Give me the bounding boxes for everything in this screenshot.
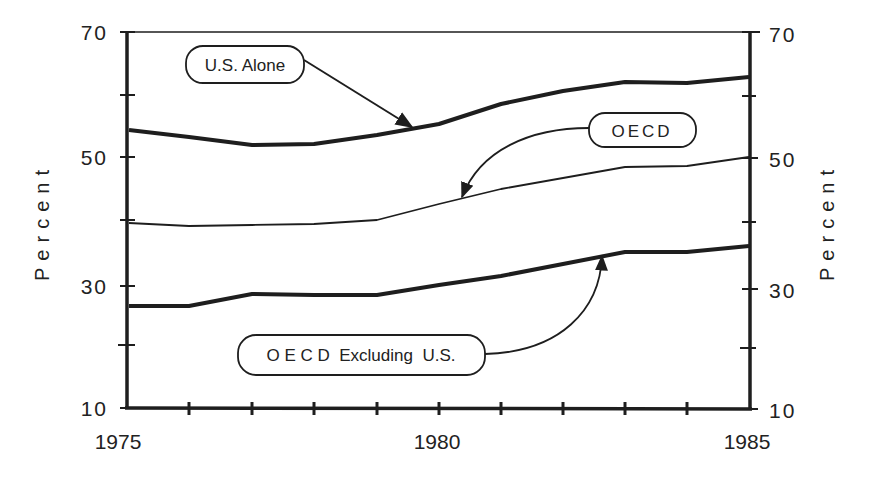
- y-tick-label-70-right: 70: [769, 23, 796, 46]
- x-tick-label-1975: 1975: [95, 430, 142, 453]
- series-oecd-line: [129, 157, 749, 226]
- x-tick-label-1985: 1985: [724, 430, 771, 453]
- y-tick-label-10-right: 10: [769, 399, 796, 422]
- callout-oecd-excluding-us: O E C D Excluding U.S.: [238, 256, 602, 375]
- y-tick-label-10-left: 10: [81, 397, 108, 420]
- arrow-oecd-excluding-us: [485, 256, 602, 354]
- y-tick-label-30-left: 30: [81, 275, 108, 298]
- y-tick-label-50-left: 50: [81, 146, 108, 169]
- y-tick-label-50-right: 50: [769, 148, 796, 171]
- callout-us-alone: U.S. Alone: [186, 46, 412, 127]
- callout-us-alone-label: U.S. Alone: [205, 56, 285, 75]
- series-oecd-excluding-us-line: [129, 246, 749, 306]
- y-axis-title-left: Percent: [31, 163, 53, 281]
- y-axis-title-right: Percent: [816, 163, 838, 281]
- chart-canvas: 70 50 30 10 70 50 30 10 1975 1980 1985 P…: [0, 0, 872, 479]
- callout-oecd-excluding-us-label: O E C D Excluding U.S.: [267, 346, 456, 365]
- y-tick-label-30-right: 30: [769, 279, 796, 302]
- arrow-us-alone: [304, 60, 412, 127]
- callout-oecd-label: OECD: [611, 122, 672, 141]
- callout-oecd: OECD: [462, 113, 696, 197]
- y-tick-label-70-left: 70: [81, 21, 108, 44]
- x-tick-label-1980: 1980: [414, 430, 461, 453]
- arrow-oecd: [462, 128, 589, 197]
